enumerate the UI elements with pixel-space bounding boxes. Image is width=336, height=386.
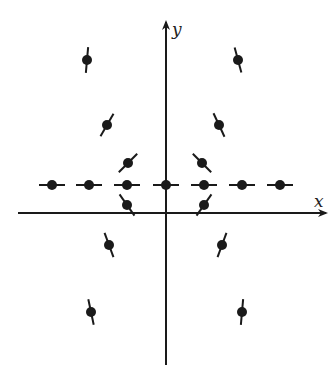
slope-point	[193, 154, 211, 172]
slope-point	[101, 114, 114, 137]
x-axis-label: x	[314, 191, 324, 211]
point-dot	[214, 120, 224, 130]
slope-point	[237, 299, 247, 325]
y-axis-label: y	[171, 19, 182, 39]
point-dot	[123, 158, 133, 168]
slope-point	[191, 180, 217, 190]
point-dot	[86, 307, 96, 317]
point-dot	[217, 240, 227, 250]
point-dot	[237, 307, 247, 317]
point-dot	[233, 55, 243, 65]
slope-point	[229, 180, 255, 190]
slope-point	[86, 299, 96, 324]
point-dot	[237, 180, 247, 190]
slope-point	[76, 180, 102, 190]
slope-point	[39, 180, 65, 190]
point-dot	[122, 200, 132, 210]
slope-point	[217, 233, 227, 257]
point-dot	[199, 200, 209, 210]
point-dot	[84, 180, 94, 190]
slope-point	[267, 180, 293, 190]
point-dot	[275, 180, 285, 190]
point-dot	[82, 55, 92, 65]
direction-field-figure: x y	[0, 0, 336, 386]
slope-point	[214, 113, 225, 137]
point-dot	[47, 180, 57, 190]
point-dot	[199, 180, 209, 190]
point-dot	[161, 180, 171, 190]
slope-point	[233, 47, 243, 72]
slope-point	[82, 47, 92, 73]
point-dot	[197, 158, 207, 168]
slope-point	[153, 180, 179, 190]
point-dot	[102, 120, 112, 130]
slope-point	[119, 154, 137, 172]
slope-point	[104, 233, 114, 257]
point-dot	[122, 180, 132, 190]
point-dot	[104, 240, 114, 250]
slope-point	[114, 180, 140, 190]
